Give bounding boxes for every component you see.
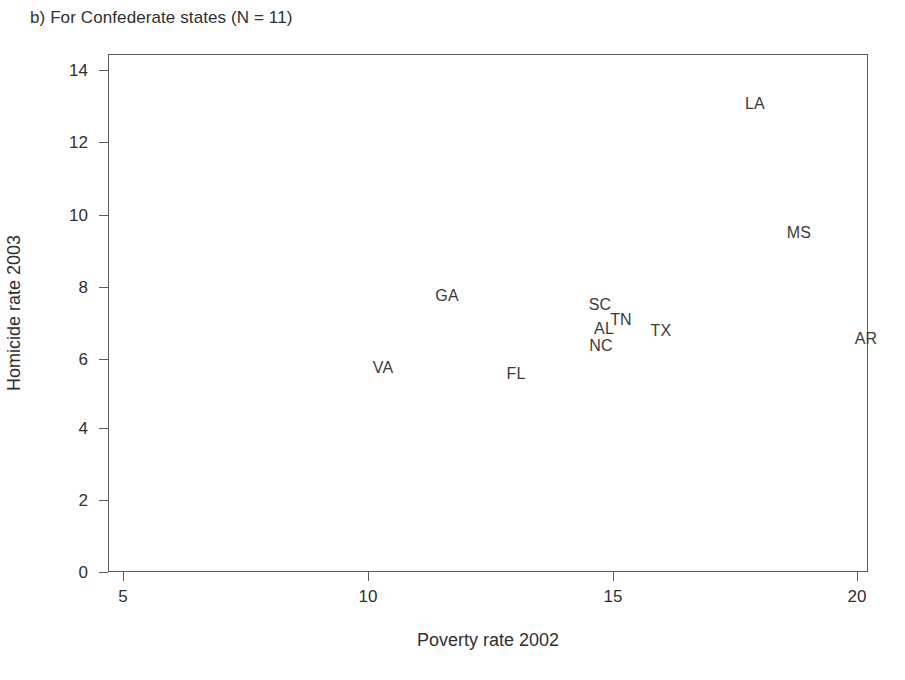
y-tick-label: 0 bbox=[79, 564, 88, 581]
plot-frame bbox=[108, 54, 868, 572]
y-tick-label: 4 bbox=[79, 420, 88, 437]
y-tick-mark bbox=[99, 428, 108, 429]
x-tick-mark bbox=[123, 572, 124, 581]
data-point-ms: MS bbox=[787, 225, 811, 241]
data-point-va: VA bbox=[373, 360, 394, 376]
data-point-la: LA bbox=[745, 96, 765, 112]
y-tick-mark bbox=[99, 142, 108, 143]
y-tick-mark bbox=[99, 215, 108, 216]
y-tick-mark bbox=[99, 359, 108, 360]
y-tick-label: 14 bbox=[69, 62, 88, 79]
data-point-nc: NC bbox=[589, 338, 613, 354]
y-tick-mark bbox=[99, 500, 108, 501]
data-point-tx: TX bbox=[651, 323, 672, 339]
scatter-plot-figure: b) For Confederate states (N = 11) 14121… bbox=[0, 0, 905, 680]
y-axis-title: Homicide rate 2003 bbox=[4, 235, 25, 391]
x-tick-mark bbox=[857, 572, 858, 581]
panel-caption: b) For Confederate states (N = 11) bbox=[30, 8, 292, 28]
y-tick-label: 8 bbox=[79, 279, 88, 296]
x-tick-mark bbox=[368, 572, 369, 581]
x-tick-label: 10 bbox=[359, 588, 378, 605]
x-tick-label: 15 bbox=[604, 588, 623, 605]
y-tick-mark bbox=[99, 70, 108, 71]
x-tick-label: 5 bbox=[118, 588, 127, 605]
data-point-sc: SC bbox=[589, 297, 612, 313]
y-tick-label: 12 bbox=[69, 134, 88, 151]
y-tick-label: 10 bbox=[69, 207, 88, 224]
data-point-ga: GA bbox=[435, 288, 459, 304]
x-tick-label: 20 bbox=[848, 588, 867, 605]
data-point-fl: FL bbox=[506, 366, 525, 382]
y-tick-mark bbox=[99, 287, 108, 288]
y-tick-label: 2 bbox=[79, 492, 88, 509]
x-axis-title: Poverty rate 2002 bbox=[108, 630, 868, 651]
x-tick-mark bbox=[613, 572, 614, 581]
data-point-ar: AR bbox=[855, 331, 878, 347]
data-point-al: AL bbox=[594, 321, 614, 337]
y-tick-label: 6 bbox=[79, 351, 88, 368]
y-tick-mark bbox=[99, 572, 108, 573]
